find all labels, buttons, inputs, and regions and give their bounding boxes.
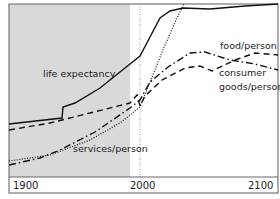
label-consumer-line2: goods/person (219, 81, 280, 92)
chart: life expectancy food/person consumer goo… (0, 0, 280, 199)
label-food-per-person: food/person (220, 40, 277, 51)
x-tick-2000: 2000 (130, 180, 155, 191)
x-tick-2100: 2100 (248, 180, 273, 191)
label-consumer-line1: consumer (219, 67, 266, 78)
x-tick-1900: 1900 (13, 180, 38, 191)
label-services-per-person: services/person (73, 143, 148, 154)
label-life-expectancy: life expectancy (43, 68, 116, 79)
